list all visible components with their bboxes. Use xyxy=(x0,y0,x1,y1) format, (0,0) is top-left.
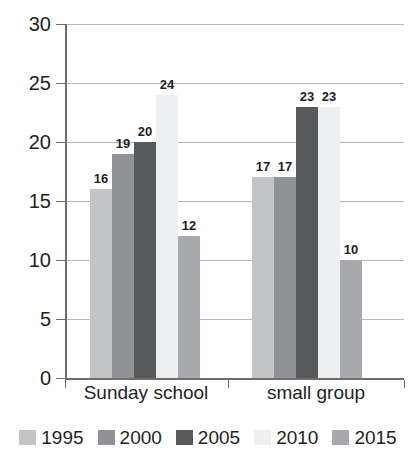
plot-area: 302520151050 16192024121717232310 xyxy=(65,24,404,378)
y-axis-tick xyxy=(56,24,65,25)
y-axis-tick xyxy=(56,319,65,320)
x-axis-category-label: Sunday school xyxy=(56,382,236,404)
y-axis-tick-label: 10 xyxy=(3,250,51,270)
bar-value-label: 10 xyxy=(335,243,367,256)
bar xyxy=(274,177,296,378)
legend-swatch-icon xyxy=(19,430,36,445)
bar-value-label: 23 xyxy=(313,90,345,103)
legend-swatch-icon xyxy=(254,430,271,445)
legend-label: 2000 xyxy=(120,428,162,447)
legend-swatch-icon xyxy=(332,430,349,445)
y-axis-tick xyxy=(56,378,65,379)
gridline xyxy=(67,83,404,84)
y-axis-tick-label: 25 xyxy=(3,73,51,93)
bar xyxy=(296,107,318,378)
y-axis-tick xyxy=(56,201,65,202)
bar xyxy=(156,95,178,378)
legend-label: 2010 xyxy=(276,428,318,447)
y-axis-tick-label: 30 xyxy=(3,14,51,34)
bar xyxy=(112,154,134,378)
legend-label: 2005 xyxy=(198,428,240,447)
legend-item: 1995 xyxy=(19,428,83,447)
legend-label: 2015 xyxy=(354,428,396,447)
y-axis-tick-label: 0 xyxy=(3,368,51,388)
x-axis-category-label: small group xyxy=(226,382,406,404)
gridline xyxy=(67,24,404,25)
legend-swatch-icon xyxy=(98,430,115,445)
y-axis-tick-label: 15 xyxy=(3,191,51,211)
x-axis-line xyxy=(65,378,404,380)
y-axis-tick xyxy=(56,260,65,261)
y-axis-tick-label: 20 xyxy=(3,132,51,152)
bar xyxy=(134,142,156,378)
y-axis-tick xyxy=(56,142,65,143)
bar-value-label: 12 xyxy=(173,219,205,232)
bar xyxy=(90,189,112,378)
bar-value-label: 24 xyxy=(151,78,183,91)
y-axis-tick-label: 5 xyxy=(3,309,51,329)
legend-item: 2000 xyxy=(98,428,162,447)
legend-item: 2005 xyxy=(176,428,240,447)
chart-title xyxy=(0,0,416,1)
bar xyxy=(178,236,200,378)
legend-swatch-icon xyxy=(176,430,193,445)
bar xyxy=(252,177,274,378)
chart-legend: 19952000200520102015 xyxy=(0,420,416,454)
bar xyxy=(340,260,362,378)
y-axis-tick xyxy=(56,83,65,84)
legend-label: 1995 xyxy=(41,428,83,447)
legend-item: 2010 xyxy=(254,428,318,447)
bar-chart: 302520151050 16192024121717232310 Sunday… xyxy=(0,0,416,454)
legend-item: 2015 xyxy=(332,428,396,447)
